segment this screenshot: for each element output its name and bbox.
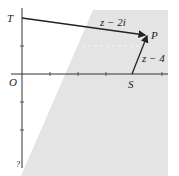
label-z-minus-4: z − 4 bbox=[141, 52, 165, 64]
label-s: S bbox=[128, 78, 134, 90]
label-z-minus-2i: z − 2i bbox=[99, 16, 126, 28]
label-o: O bbox=[9, 76, 17, 88]
argand-diagram: T O S P z − 2i z − 4 ? bbox=[0, 0, 179, 176]
label-t: T bbox=[7, 12, 14, 24]
shaded-region bbox=[21, 10, 168, 176]
label-p: P bbox=[150, 29, 158, 41]
label-bottom: ? bbox=[16, 160, 20, 169]
